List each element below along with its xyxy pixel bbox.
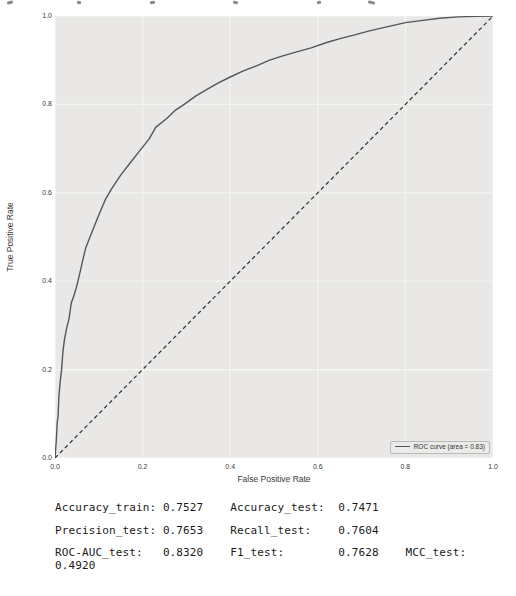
legend-label: ROC curve (area = 0.83) [414, 444, 485, 451]
metrics-line-2: Precision_test: 0.7653 Recall_test: 0.76… [55, 524, 466, 537]
cropped-text-remnant [368, 0, 376, 5]
y-tick-label: 1.0 [24, 12, 52, 19]
x-tick-label: 0.8 [393, 463, 417, 470]
y-tick-label: 0.2 [24, 366, 52, 373]
metrics-line-1: Accuracy_train: 0.7527 Accuracy_test: 0.… [55, 501, 466, 514]
legend-line-sample [395, 446, 410, 447]
metrics-line-3: ROC-AUC_test: 0.8320 F1_test: 0.7628 MCC… [55, 546, 466, 572]
x-tick-label: 1.0 [481, 463, 505, 470]
cropped-text-remnant [7, 0, 13, 4]
x-tick-label: 0.2 [131, 463, 155, 470]
y-tick-label: 0.8 [24, 100, 52, 107]
figure-canvas: ROC curve (area = 0.83) 0.00.20.40.60.81… [0, 0, 516, 596]
cropped-text-remnant [77, 1, 82, 5]
cropped-text-remnant [317, 1, 322, 5]
cropped-text-remnant [150, 1, 156, 5]
cropped-text-remnant [233, 0, 239, 4]
y-axis-label: True Positive Rate [5, 202, 15, 272]
y-tick-label: 0.6 [24, 189, 52, 196]
x-axis-label: False Positive Rate [55, 474, 493, 484]
metrics-output: Accuracy_train: 0.7527 Accuracy_test: 0.… [55, 501, 466, 582]
x-tick-label: 0.0 [43, 463, 67, 470]
chance-diagonal-line [55, 16, 493, 458]
x-tick-label: 0.4 [218, 463, 242, 470]
roc-curve-svg [55, 16, 493, 458]
roc-plot-area: ROC curve (area = 0.83) [55, 16, 493, 458]
legend-box: ROC curve (area = 0.83) [390, 441, 490, 455]
x-tick-label: 0.6 [306, 463, 330, 470]
y-tick-label: 0.0 [24, 454, 52, 461]
y-tick-label: 0.4 [24, 277, 52, 284]
